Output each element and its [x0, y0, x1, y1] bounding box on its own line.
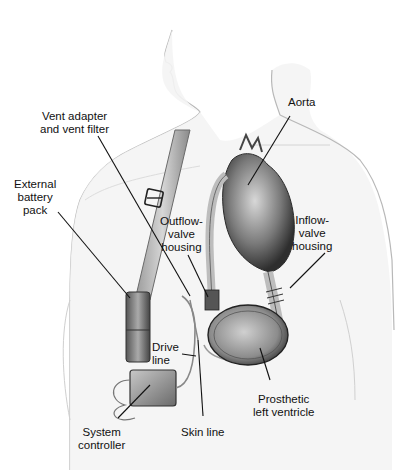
- body-silhouette: [63, 30, 394, 470]
- label-inflow-valve-housing: Inflow- valve housing: [292, 214, 332, 253]
- lvad-illustration: [0, 0, 416, 470]
- label-system-controller: System controller: [78, 426, 125, 452]
- label-aorta: Aorta: [288, 96, 316, 109]
- label-skin-line: Skin line: [181, 426, 224, 439]
- label-outflow-valve-housing: Outflow- valve housing: [160, 215, 203, 254]
- label-vent-adapter: Vent adapter and vent filter: [40, 110, 109, 136]
- label-external-battery-pack: External battery pack: [14, 178, 56, 217]
- prosthetic-left-ventricle: [208, 305, 288, 365]
- label-prosthetic-left-ventricle: Prosthetic left ventricle: [253, 393, 314, 419]
- external-battery-pack: [126, 292, 150, 362]
- label-drive-line: Drive line: [152, 341, 179, 367]
